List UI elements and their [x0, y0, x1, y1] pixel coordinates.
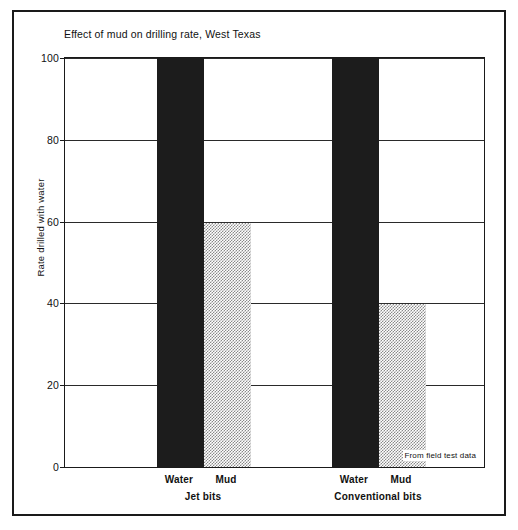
gridline-100 [65, 58, 484, 59]
bar-conventional-bits-water [332, 58, 379, 467]
ytick-label-100: 100 [19, 53, 59, 64]
ytick-mark-40 [60, 303, 65, 304]
ytick-mark-0 [60, 467, 65, 468]
plot-area: 100 80 60 40 20 0 From field test data [64, 57, 485, 468]
group-label-jet-bits: Jet bits [185, 491, 222, 502]
chart-annotation: From field test data [403, 450, 478, 461]
ytick-label-20: 20 [19, 380, 59, 391]
gridline-80 [65, 140, 484, 141]
gridline-60 [65, 222, 484, 223]
xtick-label-jet-water: Water [165, 474, 193, 485]
bar-conventional-bits-mud [379, 303, 426, 467]
chart-title: Effect of mud on drilling rate, West Tex… [64, 28, 261, 40]
ytick-mark-60 [60, 222, 65, 223]
ytick-mark-100 [60, 58, 65, 59]
ytick-mark-20 [60, 385, 65, 386]
xtick-label-jet-mud: Mud [215, 474, 236, 485]
ytick-label-60: 60 [19, 216, 59, 227]
xtick-label-conventional-water: Water [340, 474, 368, 485]
ytick-mark-80 [60, 140, 65, 141]
ytick-label-40: 40 [19, 298, 59, 309]
bar-jet-bits-mud [204, 222, 251, 467]
chart-figure: Effect of mud on drilling rate, West Tex… [12, 10, 506, 516]
y-axis-title: Rate drilled with water [35, 158, 46, 298]
group-label-conventional-bits: Conventional bits [334, 491, 421, 502]
xtick-label-conventional-mud: Mud [390, 474, 411, 485]
ytick-label-0: 0 [19, 462, 59, 473]
ytick-label-80: 80 [19, 135, 59, 146]
bar-jet-bits-water [157, 58, 204, 467]
